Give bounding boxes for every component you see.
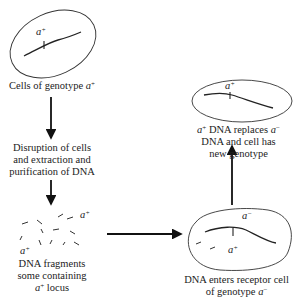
donor-allele-label: a+: [36, 26, 46, 38]
entered-fragment: [210, 247, 215, 249]
receptor-line-2: of genotype a−: [178, 286, 295, 298]
transformed-cell: [192, 80, 292, 122]
receptor-chromosome-label: a−: [242, 210, 252, 222]
transformed-line-1: a+ DNA replaces a−: [186, 124, 291, 136]
fragments-caption: DNA fragments some containing a+ locus: [0, 258, 104, 294]
transformed-caption: a+ DNA replaces a− DNA and cell has new …: [186, 124, 291, 160]
transformed-line-3: new genotype: [186, 148, 291, 160]
donor-chromosome: [24, 32, 81, 56]
transformed-line-2: DNA and cell has: [186, 136, 291, 148]
receptor-cell-membrane: [188, 209, 291, 271]
receptor-chromosome: [205, 227, 276, 243]
extraction-line-2: and extraction and: [0, 154, 104, 166]
fragments-line-2: some containing: [0, 270, 104, 282]
receptor-line-1: DNA enters receptor cell: [178, 274, 295, 286]
donor-cell-membrane: [0, 0, 107, 91]
fragment-allele-label: a+: [80, 209, 90, 221]
fragments-line-3: a+ locus: [0, 282, 104, 294]
transformed-chromosome: [204, 94, 273, 109]
dna-fragments: [20, 214, 79, 245]
fragments-line-1: DNA fragments: [0, 258, 104, 270]
donor-caption: Cells of genotype a+: [0, 80, 104, 92]
extraction-caption: Disruption of cells and extraction and p…: [0, 142, 104, 178]
extraction-line-3: purification of DNA: [0, 166, 104, 178]
entered-fragment: [196, 242, 201, 244]
receptor-cell: [188, 209, 291, 271]
fragment-allele-label: a+: [20, 245, 30, 257]
receptor-caption: DNA enters receptor cell of genotype a−: [178, 274, 295, 298]
extraction-line-1: Disruption of cells: [0, 142, 104, 154]
transformed-cell-membrane: [192, 80, 292, 122]
donor-cell: [0, 0, 107, 91]
transformed-chromosome-label: a+: [225, 80, 235, 92]
receptor-fragment-label: a+: [228, 244, 238, 256]
